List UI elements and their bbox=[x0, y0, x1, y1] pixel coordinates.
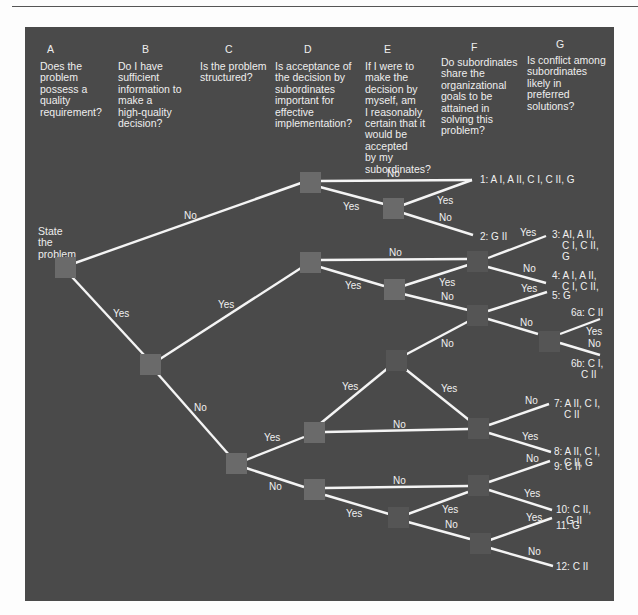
outcome-6a: 6a: C II bbox=[571, 307, 603, 318]
label-d4-no: No bbox=[393, 475, 406, 486]
outcome-11: 11: G bbox=[556, 520, 580, 531]
label-a-yes: Yes bbox=[113, 308, 129, 319]
label-d3-no: No bbox=[393, 419, 406, 430]
outcome-4: 4: A I, A II, C I, C II, bbox=[552, 270, 599, 292]
edge-e3-yes bbox=[404, 368, 469, 420]
label-f5-yes: Yes bbox=[526, 512, 542, 523]
edge-d2-no bbox=[320, 259, 467, 260]
outcome-6b: 6b: C I, C II bbox=[571, 358, 603, 380]
label-e4-yes: Yes bbox=[442, 504, 458, 515]
edge-f3-no bbox=[489, 404, 549, 425]
label-e2-no: No bbox=[441, 291, 454, 302]
label-d4-yes: Yes bbox=[346, 508, 362, 519]
svg-text:6b: C I,: 6b: C I, bbox=[571, 358, 603, 369]
label-f1-yes: Yes bbox=[520, 227, 536, 238]
label-f3-yes: Yes bbox=[522, 431, 538, 442]
svg-text:7: A II, C I,: 7: A II, C I, bbox=[554, 398, 600, 409]
edge-f3-yes bbox=[489, 433, 551, 452]
label-d2-no: No bbox=[389, 247, 402, 258]
label-f3-no: No bbox=[525, 395, 538, 406]
svg-text:G: G bbox=[562, 251, 570, 262]
svg-text:C II: C II bbox=[581, 369, 597, 380]
svg-text:C I, C II,: C I, C II, bbox=[562, 240, 599, 251]
label-e3-yes: Yes bbox=[441, 383, 457, 394]
label-d1-yes: Yes bbox=[343, 201, 359, 212]
edge-b-yes bbox=[160, 268, 301, 359]
svg-text:10: C II,: 10: C II, bbox=[556, 504, 591, 515]
svg-text:C II: C II bbox=[564, 409, 580, 420]
outcome-9: 9: C II bbox=[554, 461, 581, 472]
edge-f4-no bbox=[489, 461, 550, 482]
node-e-low[interactable] bbox=[388, 507, 409, 528]
edge-d1-no bbox=[320, 180, 472, 181]
edge-a-yes bbox=[72, 277, 145, 356]
label-f4-yes: Yes bbox=[524, 488, 540, 499]
node-d-top[interactable] bbox=[300, 172, 321, 193]
edge-f4-yes bbox=[489, 490, 552, 510]
edge-e4-yes bbox=[408, 492, 468, 514]
node-e-top[interactable] bbox=[383, 198, 404, 219]
edge-f5-yes bbox=[490, 518, 552, 540]
label-f2-no: No bbox=[520, 317, 533, 328]
node-d-mid[interactable] bbox=[300, 252, 321, 273]
node-e-mid[interactable] bbox=[384, 279, 405, 300]
node-d-low-yes[interactable] bbox=[304, 422, 325, 443]
label-e1-no: No bbox=[439, 212, 452, 223]
decision-tree-diagram: No Yes Yes No No Yes Yes No No Yes Yes N… bbox=[0, 0, 638, 615]
outcome-5: 5: G bbox=[552, 290, 571, 301]
node-e-center[interactable] bbox=[386, 350, 407, 371]
edge-f1-no bbox=[488, 267, 546, 283]
edge-e1-no bbox=[403, 213, 473, 235]
label-f1-no: No bbox=[523, 263, 536, 274]
label-e1-yes: Yes bbox=[437, 195, 453, 206]
edge-d4-no bbox=[325, 486, 468, 488]
outcome-7: 7: A II, C I, C II bbox=[554, 398, 600, 420]
label-c-no: No bbox=[269, 481, 282, 492]
edge-f5-no bbox=[490, 548, 553, 566]
label-e4-no: No bbox=[445, 519, 458, 530]
label-g-no: No bbox=[588, 338, 601, 349]
node-f-1[interactable] bbox=[467, 251, 488, 272]
outcome-2: 2: G II bbox=[480, 231, 507, 242]
label-f5-no: No bbox=[528, 546, 541, 557]
edge-e3-no bbox=[405, 321, 469, 355]
outcome-3: 3: AI, A II, C I, C II, G bbox=[552, 229, 599, 262]
node-d-low-no[interactable] bbox=[304, 479, 325, 500]
label-e3-no: No bbox=[441, 338, 454, 349]
label-d1-no: No bbox=[387, 168, 400, 179]
edge-e2-no bbox=[403, 294, 468, 310]
edge-e2-yes bbox=[403, 265, 468, 286]
node-b[interactable] bbox=[140, 354, 161, 375]
label-d2-yes: Yes bbox=[345, 280, 361, 291]
label-d3-yes: Yes bbox=[342, 381, 358, 392]
svg-text:4: A I, A II,: 4: A I, A II, bbox=[552, 270, 596, 281]
edge-b-no bbox=[157, 373, 230, 456]
tree-nodes bbox=[55, 172, 560, 554]
label-e2-yes: Yes bbox=[439, 277, 455, 288]
node-f-4[interactable] bbox=[468, 475, 489, 496]
label-b-no: No bbox=[194, 402, 207, 413]
node-c[interactable] bbox=[226, 453, 247, 474]
svg-text:8: A II, C I,: 8: A II, C I, bbox=[554, 446, 600, 457]
label-f4-no: No bbox=[526, 453, 539, 464]
node-g[interactable] bbox=[539, 331, 560, 352]
label-a-no: No bbox=[184, 210, 197, 221]
outcome-12: 12: C II bbox=[556, 561, 588, 572]
edge-d3-yes bbox=[321, 368, 388, 423]
label-f2-yes: Yes bbox=[521, 283, 537, 294]
node-start-a[interactable] bbox=[55, 257, 76, 278]
edge-f2-yes bbox=[488, 292, 547, 311]
edge-e4-no bbox=[408, 522, 470, 539]
node-f-5[interactable] bbox=[470, 533, 491, 554]
label-c-yes: Yes bbox=[264, 432, 280, 443]
node-f-3[interactable] bbox=[468, 418, 489, 439]
svg-text:3: AI, A II,: 3: AI, A II, bbox=[552, 229, 594, 240]
outcome-1: 1: A I, A II, C I, C II, G bbox=[480, 174, 575, 185]
label-g-yes: Yes bbox=[586, 326, 602, 337]
node-f-2[interactable] bbox=[467, 305, 488, 326]
label-b-yes: Yes bbox=[218, 299, 234, 310]
edge-a-no bbox=[75, 183, 301, 263]
edge-labels: No Yes Yes No No Yes Yes No No Yes Yes N… bbox=[113, 168, 602, 557]
